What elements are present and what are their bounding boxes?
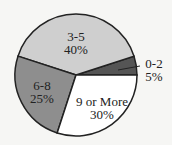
label-6-8: 6-8 25% bbox=[24, 79, 60, 105]
slice-3-5-pct: 40% bbox=[56, 43, 96, 56]
label-9-or-more: 9 or More 30% bbox=[70, 95, 134, 121]
label-3-5: 3-5 40% bbox=[56, 30, 96, 56]
slice-0-2-pct: 5% bbox=[140, 70, 168, 83]
slice-9-or-more-pct: 30% bbox=[70, 108, 134, 121]
slice-6-8-pct: 25% bbox=[24, 92, 60, 105]
label-0-2: 0-2 5% bbox=[140, 57, 168, 83]
